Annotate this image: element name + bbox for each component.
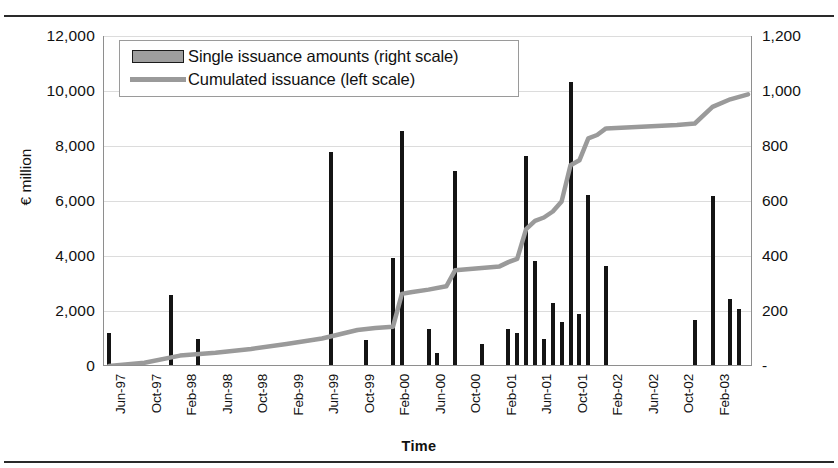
x-axis-tick-label: Feb-00: [397, 374, 412, 416]
x-axis-tick-label: Oct-99: [362, 374, 377, 413]
chart-figure: € million 02,0004,0006,0008,00010,00012,…: [0, 18, 838, 460]
x-axis-tick-label: Feb-03: [717, 374, 732, 416]
x-axis-tick-label: Oct-02: [681, 374, 696, 413]
x-axis-tick-label: Jun-99: [326, 374, 341, 414]
y-axis-left-tick-label: 2,000: [0, 302, 95, 320]
y-axis-left-tick-label: 12,000: [0, 27, 95, 45]
x-axis-tick-label: Jun-02: [646, 374, 661, 414]
x-axis-tick-label: Jun-00: [433, 374, 448, 414]
x-axis-tick-label: Feb-02: [610, 374, 625, 416]
x-axis-tick-label: Oct-00: [468, 374, 483, 413]
x-axis-tick-label: Feb-01: [504, 374, 519, 416]
legend-line-swatch-icon: [128, 77, 188, 82]
x-axis-tick-label: Oct-97: [149, 374, 164, 413]
legend-bar-swatch-icon: [128, 50, 188, 63]
page-rule-bottom: [4, 461, 834, 463]
legend-label-line: Cumulated issuance (left scale): [188, 70, 415, 89]
legend-item-line: Cumulated issuance (left scale): [128, 68, 512, 91]
x-axis-tick-label: Oct-01: [575, 374, 590, 413]
x-axis-tick-label: Jun-01: [539, 374, 554, 414]
y-axis-left-tick-label: 4,000: [0, 247, 95, 265]
y-axis-right-tick-label: 800: [762, 137, 836, 155]
y-axis-right-tick-label: -: [762, 357, 836, 375]
x-axis-tick-label: Feb-99: [291, 374, 306, 416]
x-axis-tick-label: Feb-98: [184, 374, 199, 416]
chart-legend: Single issuance amounts (right scale) Cu…: [119, 40, 519, 97]
y-axis-right-tick-label: 400: [762, 247, 836, 265]
y-axis-left-tick-label: 8,000: [0, 137, 95, 155]
y-axis-left-tick-label: 6,000: [0, 192, 95, 210]
clipped-caption-top: [0, 0, 838, 8]
y-axis-left-tick-label: 10,000: [0, 82, 95, 100]
y-axis-left-tick-label: 0: [0, 357, 95, 375]
x-axis-tick-label: Oct-98: [255, 374, 270, 413]
y-axis-right-tick-label: 600: [762, 192, 836, 210]
x-axis-tick-label: Jun-98: [220, 374, 235, 414]
plot-area: Single issuance amounts (right scale) Cu…: [103, 36, 752, 366]
y-axis-right-tick-label: 1,000: [762, 82, 836, 100]
y-axis-left-title: € million: [17, 117, 35, 237]
y-axis-right-tick-label: 200: [762, 302, 836, 320]
x-axis-title: Time: [0, 438, 838, 454]
legend-label-bars: Single issuance amounts (right scale): [188, 47, 459, 66]
legend-item-bars: Single issuance amounts (right scale): [128, 45, 512, 68]
y-axis-right-tick-label: 1,200: [762, 27, 836, 45]
x-axis-tick-label: Jun-97: [113, 374, 128, 414]
page-rule-top: [4, 15, 834, 17]
